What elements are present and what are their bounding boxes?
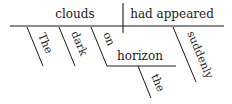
adverb-word-suddenly: suddenly	[184, 29, 216, 81]
modifier-word-the: The	[35, 31, 55, 55]
subject-word: clouds	[55, 7, 94, 21]
preposition-word-on: on	[100, 30, 117, 48]
predicate-word: had appeared	[130, 7, 214, 21]
modifier-word-the-object: the	[148, 72, 167, 94]
sentence-diagram: clouds had appeared The dark on horizon …	[0, 0, 232, 104]
modifier-word-dark: dark	[68, 29, 90, 58]
modifier-line-the-object	[138, 66, 151, 98]
prep-object-word: horizon	[117, 49, 163, 63]
